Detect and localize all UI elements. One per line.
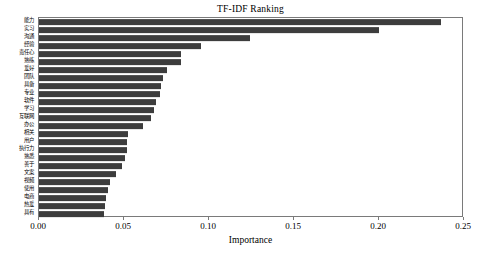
- bar-row: [39, 162, 462, 170]
- bar: [39, 163, 122, 169]
- bar-row: [39, 58, 462, 66]
- bar: [39, 91, 160, 97]
- y-tick-label: 爱好: [24, 66, 34, 71]
- y-tick-label: 相关: [24, 130, 34, 135]
- x-tick-mark: [293, 217, 294, 220]
- y-tick-label: 熟练: [24, 58, 34, 63]
- x-axis-label: Importance: [38, 235, 463, 245]
- bar-row: [39, 138, 462, 146]
- chart-title: TF-IDF Ranking: [38, 4, 463, 14]
- bar-row: [39, 82, 462, 90]
- bar-row: [39, 66, 462, 74]
- bar: [39, 19, 441, 25]
- bar: [39, 83, 161, 89]
- x-tick-label: 0.25: [455, 221, 471, 231]
- y-tick-label: 善于: [24, 162, 34, 167]
- y-tick-label: 执行力: [19, 146, 34, 151]
- y-tick-label: 文案: [24, 170, 34, 175]
- y-tick-label: 沟通: [24, 34, 34, 39]
- bar: [39, 155, 125, 161]
- bar: [39, 171, 116, 177]
- y-tick-label: 熟悉: [24, 154, 34, 159]
- bar-row: [39, 202, 462, 210]
- x-tick-label: 0.15: [285, 221, 301, 231]
- y-tick-label: 责任心: [19, 50, 34, 55]
- y-tick-label: 能力: [24, 18, 34, 23]
- x-tick-label: 0.20: [370, 221, 386, 231]
- bar: [39, 35, 250, 41]
- plot-area: [38, 17, 463, 217]
- bar-row: [39, 50, 462, 58]
- bar: [39, 115, 151, 121]
- bar: [39, 67, 167, 73]
- y-tick-label: 实习: [24, 26, 34, 31]
- y-tick-label: 软件: [24, 98, 34, 103]
- bar: [39, 211, 104, 217]
- bar-row: [39, 42, 462, 50]
- y-tick-label: 学习: [24, 106, 34, 111]
- x-tick-mark: [123, 217, 124, 220]
- bar: [39, 147, 127, 153]
- bar-row: [39, 106, 462, 114]
- x-tick-mark: [463, 217, 464, 220]
- bar-row: [39, 98, 462, 106]
- x-tick-label: 0.10: [200, 221, 216, 231]
- bar-row: [39, 90, 462, 98]
- x-tick-label: 0.00: [30, 221, 46, 231]
- bar-row: [39, 178, 462, 186]
- bar: [39, 131, 128, 137]
- bar: [39, 99, 156, 105]
- y-tick-label: 专业: [24, 90, 34, 95]
- y-tick-label: 团队: [24, 74, 34, 79]
- bar: [39, 27, 379, 33]
- y-tick-label: 具有: [24, 210, 34, 215]
- x-tick-mark: [378, 217, 379, 220]
- bar: [39, 187, 108, 193]
- x-tick-mark: [38, 217, 39, 220]
- y-axis-tick-labels: 能力实习沟通经验责任心熟练爱好团队具备专业软件学习互联网办公相关用户执行力熟悉善…: [0, 17, 36, 217]
- y-tick-label: 经验: [24, 42, 34, 47]
- bar-row: [39, 170, 462, 178]
- bar: [39, 139, 127, 145]
- bar: [39, 203, 105, 209]
- bar-row: [39, 194, 462, 202]
- bar: [39, 43, 201, 49]
- y-tick-label: 具备: [24, 82, 34, 87]
- bar-row: [39, 18, 462, 26]
- bar-row: [39, 114, 462, 122]
- y-tick-label: 互联网: [19, 114, 34, 119]
- bar-row: [39, 154, 462, 162]
- y-tick-label: 办公: [24, 122, 34, 127]
- bar-row: [39, 74, 462, 82]
- bar: [39, 51, 181, 57]
- bar: [39, 123, 143, 129]
- bar-row: [39, 130, 462, 138]
- y-tick-label: 使用: [24, 186, 34, 191]
- bar-row: [39, 26, 462, 34]
- bar-row: [39, 34, 462, 42]
- bar-series: [39, 18, 462, 216]
- bar-row: [39, 186, 462, 194]
- y-tick-label: 热爱: [24, 202, 34, 207]
- bar-row: [39, 122, 462, 130]
- bar: [39, 179, 110, 185]
- bar: [39, 107, 154, 113]
- bar: [39, 195, 106, 201]
- x-tick-mark: [208, 217, 209, 220]
- chart-figure: TF-IDF Ranking 能力实习沟通经验责任心熟练爱好团队具备专业软件学习…: [0, 0, 479, 269]
- y-tick-label: 电商: [24, 194, 34, 199]
- y-tick-label: 用户: [24, 138, 34, 143]
- x-tick-label: 0.05: [115, 221, 131, 231]
- y-tick-label: 视频: [24, 178, 34, 183]
- bar: [39, 75, 163, 81]
- bar: [39, 59, 181, 65]
- bar-row: [39, 146, 462, 154]
